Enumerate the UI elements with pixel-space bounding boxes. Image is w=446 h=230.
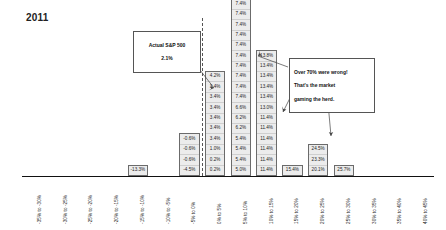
forecast-value-cell: 6.6% xyxy=(232,103,251,113)
x-axis-tick-labels: -35% to -30%-30% to -25%-25% to -20%-20%… xyxy=(22,178,434,230)
x-axis-tick-label: -15% to -10% xyxy=(140,195,145,224)
forecast-value-cell: -0.6% xyxy=(180,134,199,144)
x-axis-tick-label: -35% to -30% xyxy=(37,195,42,224)
forecast-value-cell: 13.4% xyxy=(257,82,276,92)
forecast-value-cell: 13.4% xyxy=(257,62,276,72)
forecast-value-cell: 5.4% xyxy=(232,145,251,155)
forecast-value-cell: 11.4% xyxy=(257,166,276,175)
forecast-value-cell: 13.4% xyxy=(257,72,276,82)
forecast-value-cell: 3.4% xyxy=(206,114,225,124)
bin-stack: 25.7% xyxy=(334,165,355,176)
x-axis-tick-label: 10% to 15% xyxy=(269,198,274,224)
forecast-value-cell: 11.4% xyxy=(257,134,276,144)
x-axis-line xyxy=(22,176,434,177)
x-axis-tick-label: -10% to -5% xyxy=(166,198,171,224)
forecast-value-cell: 25.7% xyxy=(335,166,354,175)
commentary-callout-line-3: gaming the herd. xyxy=(294,96,370,103)
x-axis-tick-label: 30% to 35% xyxy=(372,198,377,224)
bin-stack: -13.3% xyxy=(128,165,149,176)
forecast-value-cell: 7.4% xyxy=(232,93,251,103)
forecast-value-cell: 3.4% xyxy=(206,93,225,103)
forecast-value-cell: 3.4% xyxy=(206,103,225,113)
commentary-callout-line-1: Over 70% were wrong! xyxy=(294,69,370,76)
forecast-value-cell: 0.2% xyxy=(206,166,225,175)
actual-callout-line-2: 2.1% xyxy=(138,55,196,62)
commentary-callout: Over 70% were wrong! That's the market g… xyxy=(289,58,375,113)
histogram-bin: 25.7% xyxy=(334,167,355,176)
forecast-value-cell: 23.3% xyxy=(309,155,328,165)
x-axis-tick-label: 15% to 20% xyxy=(294,198,299,224)
histogram-bin: 4.2%3.4%3.4%3.4%3.4%3.4%3.4%1.0%0.2%0.2% xyxy=(205,82,226,176)
bin-stack: 13.8%13.4%13.4%13.4%13.4%13.0%11.4%11.4%… xyxy=(256,50,277,176)
forecast-value-cell: 0.2% xyxy=(206,155,225,165)
x-axis-tick-label: -5% to 0% xyxy=(191,202,196,224)
forecast-value-cell: 5.0% xyxy=(232,166,251,175)
forecast-histogram-chart: 2011 -13.3%-0.6%-0.6%-0.6%-4.5%4.2%3.4%3… xyxy=(0,0,446,230)
forecast-value-cell: 6.2% xyxy=(232,124,251,134)
forecast-value-cell: 6.2% xyxy=(232,114,251,124)
forecast-value-cell: 3.4% xyxy=(206,124,225,134)
x-axis-tick-label: -30% to -25% xyxy=(63,195,68,224)
forecast-value-cell: -0.6% xyxy=(180,155,199,165)
actual-callout-line-1: Actual S&P 500 xyxy=(138,42,196,49)
forecast-value-cell: 5.4% xyxy=(232,134,251,144)
forecast-value-cell: 13.8% xyxy=(257,51,276,61)
forecast-value-cell: 11.4% xyxy=(257,114,276,124)
forecast-value-cell: -4.5% xyxy=(180,166,199,175)
forecast-value-cell: 7.4% xyxy=(232,82,251,92)
x-axis-tick-label: -20% to -15% xyxy=(114,195,119,224)
x-axis-tick-label: 20% to 25% xyxy=(320,198,325,224)
forecast-value-cell: 20.1% xyxy=(309,166,328,175)
histogram-bin: 9.8%8.4%7.4%7.4%7.4%7.4%7.4%7.4%7.4%7.4%… xyxy=(231,0,252,176)
forecast-value-cell: 11.4% xyxy=(257,145,276,155)
forecast-value-cell: 24.5% xyxy=(309,145,328,155)
zero-reference-line xyxy=(202,18,203,176)
forecast-value-cell: 15.4% xyxy=(283,166,302,175)
histogram-bin: 15.4% xyxy=(282,167,303,176)
histogram-bin: 24.5%23.3%20.1% xyxy=(308,148,329,176)
bin-stack: -0.6%-0.6%-0.6%-4.5% xyxy=(179,133,200,176)
x-axis-tick-label: 5% to 10% xyxy=(243,201,248,224)
forecast-value-cell: 7.4% xyxy=(232,51,251,61)
forecast-value-cell: 1.0% xyxy=(206,145,225,155)
forecast-value-cell: 7.4% xyxy=(232,41,251,51)
x-axis-tick-label: 25% to 30% xyxy=(346,198,351,224)
forecast-value-cell: 7.4% xyxy=(232,62,251,72)
actual-sp500-callout: Actual S&P 500 2.1% xyxy=(133,31,201,73)
forecast-value-cell: 11.4% xyxy=(257,155,276,165)
forecast-value-cell: 13.4% xyxy=(257,93,276,103)
commentary-callout-line-2: That's the market xyxy=(294,82,370,89)
forecast-value-cell: 7.4% xyxy=(232,20,251,30)
histogram-bin: -13.3% xyxy=(128,167,149,176)
forecast-value-cell: -13.3% xyxy=(129,166,148,175)
forecast-value-cell: 7.4% xyxy=(232,31,251,41)
forecast-value-cell: 3.4% xyxy=(206,82,225,92)
bin-stack: 4.2%3.4%3.4%3.4%3.4%3.4%3.4%1.0%0.2%0.2% xyxy=(205,71,226,176)
forecast-value-cell: 7.4% xyxy=(232,72,251,82)
forecast-value-cell: 7.4% xyxy=(232,0,251,10)
bin-stack: 9.8%8.4%7.4%7.4%7.4%7.4%7.4%7.4%7.4%7.4%… xyxy=(231,0,252,176)
bin-stack: 24.5%23.3%20.1% xyxy=(308,144,329,176)
forecast-value-cell: 7.4% xyxy=(232,10,251,20)
x-axis-tick-label: 40% to 45% xyxy=(423,198,428,224)
forecast-value-cell: 5.4% xyxy=(232,155,251,165)
bin-stack: 15.4% xyxy=(282,165,303,176)
forecast-value-cell: 4.2% xyxy=(206,72,225,82)
x-axis-tick-label: 0% to 5% xyxy=(217,204,222,224)
x-axis-tick-label: -25% to -20% xyxy=(88,195,93,224)
forecast-value-cell: 11.4% xyxy=(257,124,276,134)
x-axis-tick-label: 35% to 40% xyxy=(397,198,402,224)
forecast-value-cell: 3.4% xyxy=(206,134,225,144)
forecast-value-cell: -0.6% xyxy=(180,145,199,155)
histogram-bin: -0.6%-0.6%-0.6%-4.5% xyxy=(179,138,200,176)
forecast-value-cell: 13.0% xyxy=(257,103,276,113)
histogram-bin: 13.8%13.4%13.4%13.4%13.4%13.0%11.4%11.4%… xyxy=(256,63,277,176)
